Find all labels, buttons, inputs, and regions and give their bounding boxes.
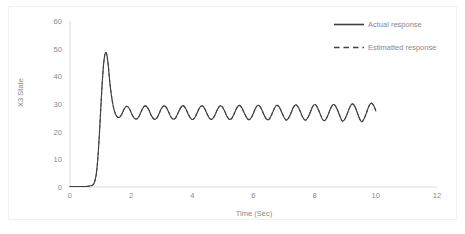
- x-tick-label-10: 10: [364, 191, 388, 200]
- y-tick-label-30: 30: [38, 100, 62, 109]
- y-tick-label-60: 60: [38, 17, 62, 26]
- x-tick-label-0: 0: [58, 191, 82, 200]
- x-tick-label-8: 8: [303, 191, 327, 200]
- legend-item-actual-response[interactable]: Actual response: [334, 20, 422, 29]
- x-tick-label-6: 6: [242, 191, 266, 200]
- legend-swatch-solid-line: [334, 20, 364, 29]
- legend-item-estimatted-response[interactable]: Estimatted response: [334, 43, 436, 52]
- series-line-actual-response: [70, 52, 376, 186]
- y-tick-label-40: 40: [38, 72, 62, 81]
- series-line-estimatted-response: [70, 52, 376, 186]
- x-tick-label-2: 2: [119, 191, 143, 200]
- y-tick-label-20: 20: [38, 128, 62, 137]
- line-chart-figure: 60 50 40 30 20 10 0 0 2 4 6 8 10 12 X3 S…: [0, 0, 465, 234]
- x-axis-title: Time (Sec): [70, 209, 438, 218]
- x-tick-label-4: 4: [180, 191, 204, 200]
- y-tick-label-50: 50: [38, 45, 62, 54]
- y-axis-title: X3 State: [16, 63, 25, 123]
- legend-swatch-dashed-line: [334, 43, 364, 52]
- y-tick-label-10: 10: [38, 155, 62, 164]
- legend-label-estimatted-response: Estimatted response: [368, 43, 436, 52]
- x-tick-label-12: 12: [425, 191, 449, 200]
- legend-label-actual-response: Actual response: [368, 20, 422, 29]
